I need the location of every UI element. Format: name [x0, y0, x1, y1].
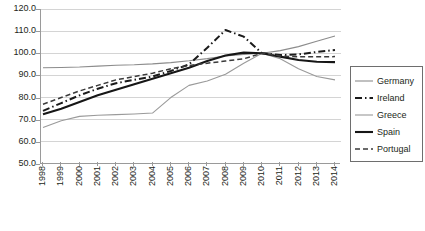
legend-swatch-icon — [354, 110, 374, 120]
x-axis-tick-label: 2007 — [201, 166, 211, 186]
legend-label: Spain — [377, 127, 400, 137]
plot-svg — [41, 9, 341, 164]
x-axis-tick-label: 2000 — [74, 166, 84, 186]
y-axis-tick-label: 50.0 — [0, 159, 36, 168]
x-axis-tick-label: 2013 — [311, 166, 321, 186]
legend-label: Ireland — [377, 93, 405, 103]
x-axis-tick-label: 2004 — [147, 166, 157, 186]
y-axis-tickmark — [36, 164, 40, 165]
x-axis-tick-label: 1998 — [37, 166, 47, 186]
y-axis-tick-label: 70.0 — [0, 115, 36, 124]
y-axis-tick-label: 60.0 — [0, 137, 36, 146]
legend: GermanyIrelandGreeceSpainPortugal — [350, 66, 423, 162]
legend-swatch-icon — [354, 144, 374, 154]
x-axis-tick-label: 2005 — [165, 166, 175, 186]
x-axis-tick-label: 2006 — [183, 166, 193, 186]
legend-label: Greece — [377, 110, 407, 120]
y-axis-tick-label: 100.0 — [0, 48, 36, 57]
x-axis-tick-label: 2001 — [92, 166, 102, 186]
legend-item[interactable]: Germany — [354, 72, 419, 89]
legend-item[interactable]: Spain — [354, 123, 419, 140]
plot-area — [40, 9, 340, 164]
line-chart: 50.060.070.080.090.0100.0110.0120.0 1998… — [0, 0, 425, 231]
y-axis: 50.060.070.080.090.0100.0110.0120.0 — [0, 0, 36, 231]
series-line-greece — [43, 53, 335, 127]
legend-swatch-icon — [354, 93, 374, 103]
series-line-germany — [43, 36, 335, 68]
legend-item[interactable]: Portugal — [354, 140, 419, 157]
legend-item[interactable]: Greece — [354, 106, 419, 123]
y-axis-tick-label: 120.0 — [0, 4, 36, 13]
x-axis: 1998199920002001200220032004200520062007… — [40, 166, 340, 228]
legend-label: Portugal — [377, 144, 411, 154]
y-axis-tick-label: 90.0 — [0, 70, 36, 79]
x-axis-tick-label: 2009 — [238, 166, 248, 186]
x-axis-tick-label: 2008 — [220, 166, 230, 186]
legend-label: Germany — [377, 76, 414, 86]
series-line-spain — [43, 53, 335, 115]
y-axis-tick-label: 110.0 — [0, 26, 36, 35]
x-axis-tick-label: 2012 — [293, 166, 303, 186]
x-axis-tick-label: 2002 — [110, 166, 120, 186]
x-axis-tick-label: 2010 — [256, 166, 266, 186]
x-axis-tick-label: 1999 — [55, 166, 65, 186]
legend-swatch-icon — [354, 76, 374, 86]
x-axis-tick-label: 2011 — [274, 166, 284, 185]
y-axis-tick-label: 80.0 — [0, 93, 36, 102]
x-axis-tick-label: 2003 — [128, 166, 138, 186]
legend-item[interactable]: Ireland — [354, 89, 419, 106]
x-axis-tick-label: 2014 — [329, 166, 339, 186]
legend-swatch-icon — [354, 127, 374, 137]
